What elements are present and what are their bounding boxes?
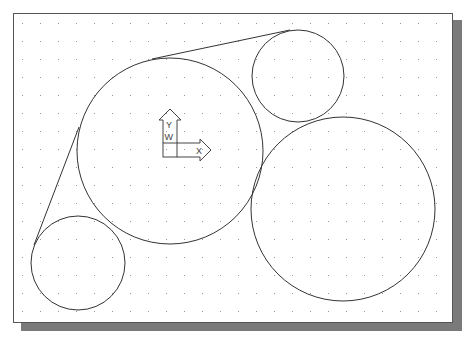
grid-dot	[166, 257, 167, 258]
grid-dot	[22, 275, 23, 276]
grid-dot	[418, 203, 419, 204]
grid-dot	[292, 311, 293, 312]
grid-dot	[130, 167, 131, 168]
grid-dot	[94, 167, 95, 168]
grid-dot	[364, 257, 365, 258]
grid-dot	[292, 77, 293, 78]
grid-dot	[202, 293, 203, 294]
grid-dot	[256, 113, 257, 114]
grid-dot	[382, 77, 383, 78]
grid-dot	[202, 185, 203, 186]
grid-dot	[310, 149, 311, 150]
grid-dot	[274, 167, 275, 168]
grid-dot	[184, 293, 185, 294]
grid-dot	[400, 23, 401, 24]
grid-dot	[22, 23, 23, 24]
large-center-circle[interactable]	[77, 58, 263, 244]
grid-dot	[310, 311, 311, 312]
ucs-x-label: X	[196, 146, 202, 156]
grid-dot	[364, 311, 365, 312]
grid-dot	[40, 131, 41, 132]
grid-dot	[148, 95, 149, 96]
small-bottom-left-circle[interactable]	[31, 216, 125, 310]
grid-dot	[94, 59, 95, 60]
grid-dot	[130, 257, 131, 258]
grid-dot	[202, 95, 203, 96]
grid-dot	[382, 113, 383, 114]
grid-dot	[40, 257, 41, 258]
grid-dot	[238, 311, 239, 312]
grid-dot	[256, 275, 257, 276]
grid-dot	[274, 293, 275, 294]
top-tangent-line[interactable]	[152, 30, 290, 59]
grid-dot	[436, 41, 437, 42]
grid-dot	[40, 221, 41, 222]
grid-dot	[382, 221, 383, 222]
grid-dot	[418, 77, 419, 78]
grid-dot	[40, 293, 41, 294]
grid-dot	[310, 185, 311, 186]
grid-dot	[364, 293, 365, 294]
ucs-icon: Y W X	[159, 109, 211, 161]
grid-dot	[382, 59, 383, 60]
grid-dot	[22, 41, 23, 42]
grid-dot	[256, 293, 257, 294]
small-top-circle[interactable]	[252, 30, 344, 122]
grid-dot	[58, 311, 59, 312]
grid-dot	[22, 203, 23, 204]
grid-dot	[310, 59, 311, 60]
grid-dot	[292, 41, 293, 42]
grid-dot	[364, 203, 365, 204]
grid-dot	[202, 221, 203, 222]
grid-dot	[166, 275, 167, 276]
grid-dot	[76, 95, 77, 96]
grid-dot	[58, 239, 59, 240]
grid-dot	[292, 95, 293, 96]
grid-dot	[400, 77, 401, 78]
grid-dot	[166, 95, 167, 96]
grid-dot	[166, 221, 167, 222]
drawing-canvas[interactable]: Y W X	[0, 0, 471, 339]
grid-dot	[220, 311, 221, 312]
grid-dot	[112, 311, 113, 312]
grid-dot	[58, 167, 59, 168]
grid-dot	[184, 149, 185, 150]
grid-dot	[94, 41, 95, 42]
ucs-x-arrow-icon	[177, 139, 211, 161]
grid-dot	[220, 59, 221, 60]
grid-dot	[148, 293, 149, 294]
grid-dot	[58, 275, 59, 276]
grid-dot	[346, 77, 347, 78]
grid-dot	[130, 95, 131, 96]
grid-dot	[328, 113, 329, 114]
grid-dot	[310, 131, 311, 132]
grid-dot	[148, 221, 149, 222]
grid-dot	[220, 41, 221, 42]
grid-dot	[148, 131, 149, 132]
grid-dot	[112, 221, 113, 222]
grid-dot	[436, 59, 437, 60]
grid-dot	[58, 41, 59, 42]
grid-dot	[328, 275, 329, 276]
grid-dot	[346, 41, 347, 42]
grid-dot	[418, 311, 419, 312]
grid-dot	[436, 113, 437, 114]
grid-dot	[112, 239, 113, 240]
grid-dot	[112, 203, 113, 204]
grid-dot	[418, 23, 419, 24]
grid-dot	[202, 131, 203, 132]
grid-dot	[94, 293, 95, 294]
grid-dot	[76, 257, 77, 258]
grid-dot	[166, 167, 167, 168]
grid-dot	[400, 95, 401, 96]
grid-dot	[418, 185, 419, 186]
grid-dot	[382, 149, 383, 150]
large-right-circle[interactable]	[251, 117, 435, 301]
grid-dot	[310, 221, 311, 222]
grid-dot	[40, 149, 41, 150]
grid-dot	[310, 203, 311, 204]
grid-dot	[94, 275, 95, 276]
grid-dot	[418, 113, 419, 114]
grid-dot	[76, 203, 77, 204]
grid-dot	[364, 149, 365, 150]
